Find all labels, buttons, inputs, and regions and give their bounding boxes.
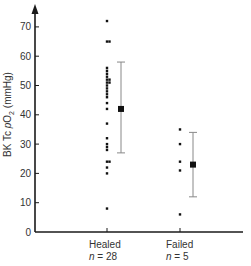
data-point [106,78,108,80]
data-point [106,207,108,209]
data-point [179,213,181,215]
data-point [106,84,108,86]
y-tick-label: 0 [25,227,31,238]
sample-size: n = 28 [89,251,121,263]
data-point [106,87,108,89]
y-tick-label: 70 [20,21,32,32]
y-tick-label: 60 [20,51,32,62]
data-point [106,143,108,145]
series-healed [106,20,125,210]
data-point [106,108,108,110]
plot-area [106,20,197,216]
data-point [108,40,110,42]
data-point [106,172,108,174]
x-category-healed: Healed n = 28 [89,239,121,263]
mean-marker [118,106,124,112]
data-point [108,81,110,83]
y-tick-label: 30 [20,139,32,150]
data-point [179,143,181,145]
series-failed [179,128,197,215]
data-point [106,122,108,124]
data-point [179,128,181,130]
data-point [106,73,108,75]
axes [32,4,244,232]
data-point [106,137,108,139]
data-point [106,40,108,42]
sample-size: n = 5 [166,251,193,263]
y-tick-label: 20 [20,168,32,179]
y-tick-label: 40 [20,109,32,120]
data-point [108,78,110,80]
data-point [106,67,108,69]
data-point [179,160,181,162]
data-point [106,160,108,162]
data-point [106,81,108,83]
y-axis-label: BK Tc pO2 (mmHg) [2,65,15,165]
data-point [106,93,108,95]
y-tick-label: 10 [20,197,32,208]
y-axis-ticks: 010203040506070 [20,21,39,237]
data-point [106,149,108,151]
data-point [106,166,108,168]
y-axis-arrow-icon [32,4,39,14]
dot-plot-chart: 010203040506070 [0,0,251,266]
category-name: Failed [166,239,193,251]
data-point [106,70,108,72]
data-point [106,102,108,104]
category-name: Healed [89,239,121,251]
data-point [179,169,181,171]
x-category-failed: Failed n = 5 [166,239,193,263]
data-point [106,90,108,92]
data-point [106,76,108,78]
data-point [106,20,108,22]
data-point [108,160,110,162]
y-tick-label: 50 [20,80,32,91]
data-point [106,146,108,148]
mean-marker [190,162,196,168]
data-point [106,96,108,98]
